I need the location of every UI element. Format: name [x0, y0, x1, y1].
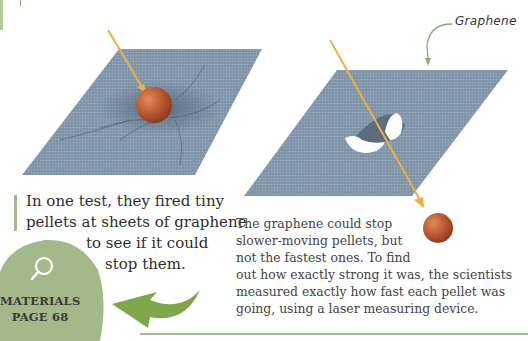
cross-reference-badge[interactable]: [0, 240, 104, 341]
right-graphene-sheet: [244, 70, 508, 196]
body-line: going, using a laser measuring device.: [236, 300, 479, 317]
body-line: The graphene could stop: [236, 215, 392, 232]
intro-line: to see if it could: [86, 233, 208, 254]
intro-line: stop them.: [105, 254, 186, 275]
bottom-divider: [140, 333, 528, 335]
caption-accent-bar: [14, 195, 17, 231]
body-line: measured exactly how fast each pellet wa…: [236, 283, 505, 300]
left-pellet: [136, 87, 172, 123]
callout-arrow: [427, 24, 452, 60]
body-line: slower-moving pellets, but: [236, 232, 402, 249]
pointer-arrow: [112, 290, 200, 328]
body-line: out how exactly strong it was, the scien…: [236, 266, 512, 283]
right-pellet: [423, 213, 453, 243]
graphene-label: Graphene: [455, 14, 517, 28]
intro-line: pellets at sheets of graphene: [26, 212, 247, 233]
body-line: not the fastest ones. To find: [236, 249, 410, 266]
cross-reference-topic[interactable]: MATERIALS: [0, 294, 80, 308]
cross-reference-page[interactable]: PAGE 68: [0, 310, 80, 324]
intro-line: In one test, they fired tiny: [26, 191, 224, 212]
